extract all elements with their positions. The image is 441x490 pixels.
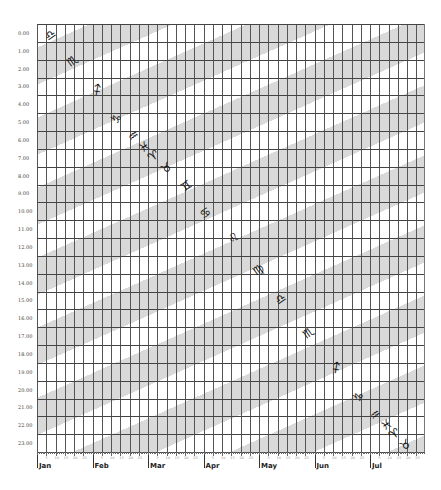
x-tick xyxy=(57,452,58,454)
x-tick xyxy=(394,452,395,454)
x-tick xyxy=(150,452,151,454)
x-tick xyxy=(331,452,332,454)
x-tick xyxy=(192,452,193,454)
day-tick-label: 5 xyxy=(156,456,158,460)
y-tick-label: 21.00 xyxy=(18,404,36,410)
month-label: May xyxy=(261,462,277,470)
x-tick xyxy=(387,452,388,454)
x-tick xyxy=(364,452,365,454)
x-tick xyxy=(220,452,221,454)
day-tick-label: 10 xyxy=(110,456,114,460)
x-tick xyxy=(311,452,312,454)
x-tick xyxy=(41,452,42,454)
x-tick xyxy=(189,452,190,454)
x-tick xyxy=(261,452,262,454)
x-tick xyxy=(385,452,386,454)
month-label: Jul xyxy=(372,462,382,470)
x-tick xyxy=(246,452,247,454)
x-tick xyxy=(244,452,245,454)
x-tick xyxy=(168,452,169,454)
day-tick-label: 20 xyxy=(184,456,188,460)
day-tick-label: 10 xyxy=(332,456,336,460)
x-tick xyxy=(274,452,275,454)
grid-hline xyxy=(37,113,424,114)
x-tick xyxy=(350,452,351,454)
x-tick xyxy=(248,452,249,454)
month-label: Jun xyxy=(317,462,330,470)
grid-hline xyxy=(37,309,424,310)
y-tick-label: 17.00 xyxy=(18,333,36,339)
x-tick xyxy=(137,452,138,454)
x-tick xyxy=(359,452,360,454)
x-tick xyxy=(307,452,308,454)
x-tick xyxy=(215,452,216,454)
x-tick xyxy=(340,452,341,454)
x-tick xyxy=(368,452,369,454)
x-tick xyxy=(109,452,110,454)
day-tick-label: 15 xyxy=(341,456,345,460)
grid-hline xyxy=(37,149,424,150)
x-tick xyxy=(50,452,51,454)
y-tick-label: 3.00 xyxy=(18,83,36,89)
x-tick xyxy=(44,452,45,454)
y-tick-label: 9.00 xyxy=(18,190,36,196)
day-tick-label: 15 xyxy=(175,456,179,460)
x-tick xyxy=(418,452,419,454)
x-tick xyxy=(211,452,212,454)
y-tick-label: 13.00 xyxy=(18,262,36,268)
x-tick xyxy=(409,452,410,454)
x-tick xyxy=(200,452,201,454)
day-tick-label: 15 xyxy=(230,456,234,460)
day-tick-label: 5 xyxy=(323,456,325,460)
day-tick-label: 25 xyxy=(138,456,142,460)
y-tick-label: 20.00 xyxy=(18,387,36,393)
x-tick xyxy=(228,452,229,454)
day-tick-label: 25 xyxy=(193,456,197,460)
x-tick xyxy=(329,452,330,454)
x-tick xyxy=(39,452,40,454)
x-tick xyxy=(255,452,256,454)
day-tick-label: 20 xyxy=(406,456,410,460)
grid-hline xyxy=(37,24,424,25)
x-tick xyxy=(381,452,382,454)
x-tick xyxy=(115,452,116,454)
x-tick xyxy=(218,452,219,454)
x-tick xyxy=(104,452,105,454)
month-marker xyxy=(37,455,38,468)
y-tick-label: 1.00 xyxy=(18,48,36,54)
x-tick xyxy=(294,452,295,454)
x-tick xyxy=(283,452,284,454)
day-tick-label: 20 xyxy=(351,456,355,460)
day-tick-label: 10 xyxy=(221,456,225,460)
x-tick xyxy=(72,452,73,454)
grid-hline xyxy=(37,416,424,417)
x-tick xyxy=(141,452,142,454)
y-tick-label: 12.00 xyxy=(18,244,36,250)
x-tick xyxy=(302,452,303,454)
x-tick xyxy=(400,452,401,454)
x-tick xyxy=(54,452,55,454)
month-label: Feb xyxy=(95,462,109,470)
x-tick xyxy=(237,452,238,454)
grid-hline xyxy=(37,167,424,168)
x-tick xyxy=(270,452,271,454)
x-tick xyxy=(67,452,68,454)
day-tick-label: 15 xyxy=(119,456,123,460)
x-tick xyxy=(198,452,199,454)
grid-hline xyxy=(37,185,424,186)
y-tick-label: 0.00 xyxy=(18,30,36,36)
month-marker xyxy=(204,455,205,468)
grid-hline xyxy=(37,256,424,257)
y-tick-label: 2.00 xyxy=(18,66,36,72)
x-tick xyxy=(348,452,349,454)
x-tick xyxy=(142,452,143,454)
y-tick-label: 16.00 xyxy=(18,315,36,321)
x-tick xyxy=(239,452,240,454)
y-tick-label: 5.00 xyxy=(18,119,36,125)
x-tick xyxy=(70,452,71,454)
grid-hline xyxy=(37,363,424,364)
grid-hline xyxy=(37,42,424,43)
x-tick xyxy=(85,452,86,454)
day-tick-label: 5 xyxy=(212,456,214,460)
x-tick xyxy=(154,452,155,454)
